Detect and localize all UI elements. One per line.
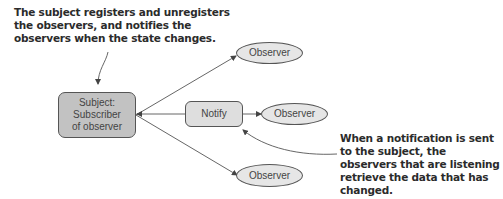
notify-node: Notify xyxy=(185,101,243,127)
subject-label-line2: Subscriber xyxy=(72,109,122,121)
observer-node-top: Observer xyxy=(236,42,303,64)
subject-label-line3: of observer xyxy=(72,121,122,133)
observer-node-bottom: Observer xyxy=(236,164,303,187)
observer-node-middle: Observer xyxy=(261,103,328,125)
annotation-subject-role: The subject registers and unregisters th… xyxy=(14,6,244,45)
annotation-arrow-top xyxy=(98,52,108,84)
annotation-notification-flow: When a notification is sent to the subje… xyxy=(340,132,503,197)
subject-label-line1: Subject: xyxy=(72,97,122,109)
subject-node: Subject: Subscriber of observer xyxy=(58,92,136,138)
annotation-arrow-bottom xyxy=(243,130,337,154)
